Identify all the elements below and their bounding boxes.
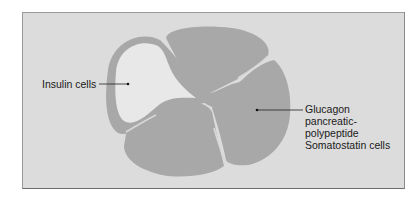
insulin-pointer-dot — [127, 83, 130, 86]
glucagon-cells-label: Glucagon pancreatic- polypeptide Somatos… — [305, 103, 390, 151]
insulin-cells-label: Insulin cells — [42, 78, 96, 90]
glucagon-label-line-1: Glucagon — [305, 103, 390, 115]
glucagon-pointer-dot — [256, 109, 259, 112]
islet-diagram — [0, 0, 420, 203]
glucagon-label-line-2: pancreatic- — [305, 115, 390, 127]
glucagon-label-line-4: Somatostatin cells — [305, 139, 390, 151]
glucagon-label-line-3: polypeptide — [305, 127, 390, 139]
